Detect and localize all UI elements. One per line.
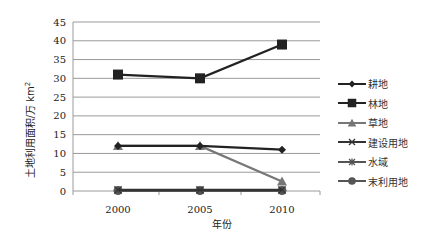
y-tick-label: 10 <box>53 148 66 159</box>
y-tick-label: 40 <box>53 35 66 46</box>
x-axis-label: 年份 <box>212 218 232 230</box>
legend-item: 草地 <box>338 113 408 133</box>
legend-label: 水域 <box>368 154 388 169</box>
legend-label: 建设用地 <box>368 135 408 150</box>
legend-item: 末利用地 <box>338 172 408 192</box>
legend-item: 林地 <box>338 94 408 114</box>
legend-label: 耕地 <box>368 76 388 91</box>
x-tick-label: 2000 <box>105 204 130 215</box>
y-axis-label: 土地利用面积/万 km2 <box>24 82 36 179</box>
square-marker-icon <box>338 97 366 109</box>
y-tick-label: 35 <box>53 54 66 65</box>
legend-item: 建设用地 <box>338 133 408 153</box>
legend-label: 草地 <box>368 115 388 130</box>
x-tick-label: 2010 <box>269 204 294 215</box>
star-marker-icon <box>338 156 366 168</box>
y-tick-label: 5 <box>60 167 66 178</box>
y-tick-label: 30 <box>53 73 66 84</box>
y-tick-label: 25 <box>53 92 66 103</box>
triangle-marker-icon <box>338 117 366 129</box>
y-tick-label: 20 <box>53 110 66 121</box>
x-axis-ticks: 200020052010 <box>105 204 294 215</box>
circle-marker-icon <box>338 175 366 187</box>
series-耕地 <box>114 142 286 154</box>
legend-label: 末利用地 <box>368 174 408 189</box>
legend-label: 林地 <box>368 96 388 111</box>
y-axis-ticks: 051015202530354045 <box>53 17 66 197</box>
legend-item: 耕地 <box>338 74 408 94</box>
y-tick-label: 15 <box>53 129 66 140</box>
x-tick-label: 2005 <box>187 204 212 215</box>
legend-item: 水域 <box>338 152 408 172</box>
diamond-marker-icon <box>338 78 366 90</box>
series-林地 <box>113 40 287 84</box>
y-tick-label: 45 <box>53 17 66 28</box>
legend: 耕地林地草地建设用地水域末利用地 <box>338 74 408 191</box>
y-tick-label: 0 <box>60 186 66 197</box>
x-marker-icon <box>338 136 366 148</box>
